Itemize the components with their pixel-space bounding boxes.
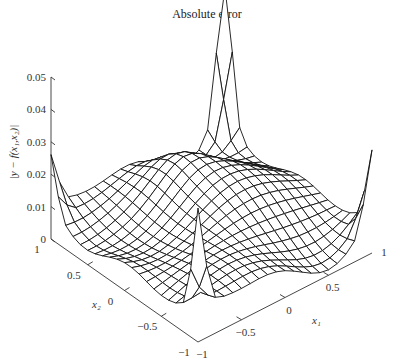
x2-tick-label: −0.5 <box>137 320 157 332</box>
x2-tick-label: −1 <box>178 346 190 358</box>
z-tick-label: 0.04 <box>27 103 47 115</box>
x1-axis-label: x₁ <box>311 314 321 326</box>
z-axis-label: |y − f(x₁,x₂)| <box>7 125 20 179</box>
x2-tick-label: 0.5 <box>67 269 81 281</box>
z-tick-label: 0.05 <box>27 71 47 83</box>
x1-tick-label: 0.5 <box>326 281 340 293</box>
z-tick-label: 0.01 <box>27 201 46 213</box>
x2-tick-label: 0 <box>108 295 114 307</box>
x2-axis-label: x₂ <box>91 298 101 310</box>
wireframe-surface <box>51 0 372 303</box>
x1-tick-label: 1 <box>381 246 387 258</box>
x1-tick-label: −1 <box>196 348 208 360</box>
x1-tick-label: 0 <box>286 304 292 316</box>
x2-tick-label: 1 <box>34 243 40 255</box>
z-tick-label: 0 <box>41 233 47 245</box>
chart-title: Absolute error <box>172 7 242 21</box>
x1-tick-label: −0.5 <box>236 326 256 338</box>
z-tick-label: 0.03 <box>27 136 47 148</box>
surface-plot: Absolute error 00.010.020.030.040.05−1−0… <box>0 0 414 364</box>
z-tick-label: 0.02 <box>27 168 46 180</box>
